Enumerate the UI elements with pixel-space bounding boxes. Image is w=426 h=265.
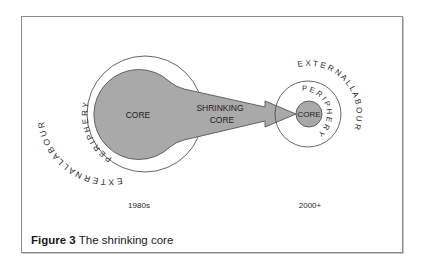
arrow-label-line1: SHRINKING	[196, 103, 243, 113]
right-core-label: CORE	[297, 110, 320, 119]
figure-number: Figure 3	[31, 234, 76, 246]
right-era-label: 2000+	[299, 201, 322, 210]
figure-title: The shrinking core	[76, 234, 174, 246]
left-core-label: CORE	[126, 110, 151, 120]
shrinking-core-arrow	[94, 70, 296, 160]
right-diagram-2000: CORE P E R I P H E R Y E X T E R N A L L…	[275, 59, 364, 210]
arrow-label-line2: CORE	[210, 115, 235, 125]
left-diagram-1980s: CORE P E R I P H E R Y E X T E R N A L L…	[36, 56, 296, 210]
left-era-label: 1980s	[128, 201, 150, 210]
figure-caption: Figure 3 The shrinking core	[31, 234, 173, 246]
shrinking-core-diagram: CORE P E R I P H E R Y E X T E R N A L L…	[0, 0, 426, 265]
